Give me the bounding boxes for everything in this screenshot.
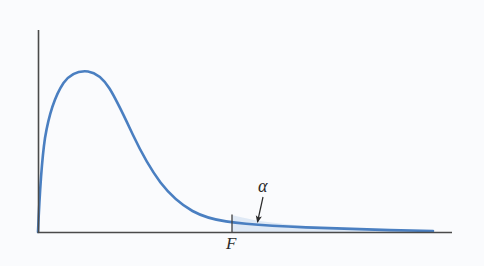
f-distribution-figure: F α <box>0 0 484 266</box>
plot-canvas <box>0 0 484 266</box>
arrow-pointer-icon <box>258 197 264 222</box>
critical-value-label: F <box>226 234 237 254</box>
f-distribution-curve <box>38 71 433 232</box>
alpha-label: α <box>258 176 267 197</box>
